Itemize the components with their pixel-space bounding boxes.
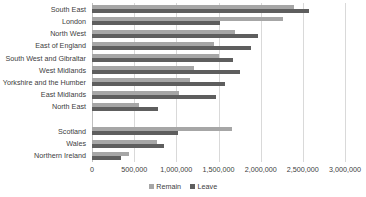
value-axis-tick-label: 1,500,000 xyxy=(203,165,235,175)
bar-group xyxy=(92,27,345,39)
gridline xyxy=(345,3,346,162)
category-label: West Midlands xyxy=(39,66,86,75)
bar-leave xyxy=(92,9,309,13)
bar-group xyxy=(92,40,345,52)
square-swatch-icon xyxy=(149,184,154,189)
category-label: South East xyxy=(51,5,86,14)
bar-leave xyxy=(92,107,158,111)
category-label: London xyxy=(62,17,86,26)
bar-rows xyxy=(92,3,345,162)
category-label: North West xyxy=(50,29,86,38)
legend-item-leave[interactable]: Leave xyxy=(190,182,217,191)
bar-leave xyxy=(92,21,220,25)
legend-label: Leave xyxy=(198,182,218,191)
bar-leave xyxy=(92,82,225,86)
value-axis-tick-label: 3,000,000 xyxy=(329,165,361,175)
chart-legend: RemainLeave xyxy=(0,182,366,191)
category-label: Northern Ireland xyxy=(34,151,86,160)
category-label: East Midlands xyxy=(41,90,86,99)
category-label: East of England xyxy=(35,41,86,50)
category-axis: South EastLondonNorth WestEast of Englan… xyxy=(0,3,89,162)
category-label: Yorkshire and the Humber xyxy=(3,78,86,87)
bar-group xyxy=(92,15,345,27)
bar-group xyxy=(92,125,345,137)
bar-leave xyxy=(92,58,233,62)
bar-group xyxy=(92,150,345,162)
legend-label: Remain xyxy=(156,182,181,191)
value-axis-tick-label: 2,000,000 xyxy=(245,165,277,175)
bar-leave xyxy=(92,46,251,50)
bar-group xyxy=(92,3,345,15)
bar-group xyxy=(92,76,345,88)
category-label: South West and Gibraltar xyxy=(5,54,86,63)
bar-group xyxy=(92,52,345,64)
bar-leave xyxy=(92,95,216,99)
bar-group xyxy=(92,64,345,76)
bar-leave xyxy=(92,144,164,148)
bar-leave xyxy=(92,34,258,38)
value-axis-labels: 0500,0001,000,0001,500,0002,000,0002,500… xyxy=(0,165,366,177)
bar-leave xyxy=(92,131,178,135)
value-axis-tick-label: 500,000 xyxy=(121,165,147,175)
legend-item-remain[interactable]: Remain xyxy=(149,182,181,191)
plot-area xyxy=(92,3,345,162)
bar-leave xyxy=(92,156,121,160)
category-label: Wales xyxy=(66,139,86,148)
bar-group xyxy=(92,101,345,113)
value-axis-tick-label: 1,000,000 xyxy=(160,165,192,175)
bar-group xyxy=(92,113,345,125)
square-swatch-icon xyxy=(190,184,195,189)
category-label: North East xyxy=(52,102,86,111)
category-label: Scotland xyxy=(58,127,86,136)
value-axis-tick-label: 2,500,000 xyxy=(287,165,319,175)
value-axis-tick-label: 0 xyxy=(90,165,94,175)
bar-chart: South EastLondonNorth WestEast of Englan… xyxy=(0,0,366,197)
bar-group xyxy=(92,138,345,150)
bar-group xyxy=(92,89,345,101)
bar-leave xyxy=(92,70,240,74)
